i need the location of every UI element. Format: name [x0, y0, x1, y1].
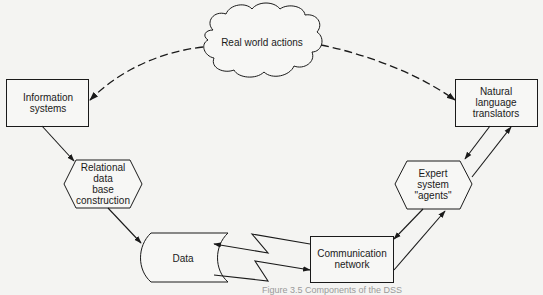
label-line: data — [76, 173, 130, 184]
label-line: "agents" — [414, 190, 451, 201]
edge-comm-to-data-lightning — [214, 234, 310, 253]
edge-expert-to-comm — [394, 209, 423, 239]
label-line: Information — [23, 92, 73, 103]
label-line: system — [414, 179, 451, 190]
edge-data-to-comm-lightning — [214, 261, 310, 281]
label-relational-data-base: Relational data base construction — [76, 162, 130, 206]
label-text: Real world actions — [221, 37, 303, 48]
label-text: Data — [172, 253, 193, 264]
edge-relational-to-data — [108, 208, 141, 243]
edge-expert-to-nl — [472, 127, 511, 177]
label-line: Communication — [317, 248, 386, 259]
figure-caption: Figure 3.5 Components of the DSS — [262, 285, 402, 295]
label-line: systems — [23, 103, 73, 114]
label-line: translators — [473, 108, 520, 119]
edge-cloud-to-nl-translators — [321, 45, 455, 100]
edge-info-to-relational — [42, 126, 74, 161]
label-real-world-actions: Real world actions — [221, 37, 303, 48]
label-expert-system: Expert system "agents" — [414, 168, 451, 201]
edge-cloud-to-info-systems — [90, 47, 203, 100]
edge-nl-to-expert — [465, 126, 490, 159]
label-line: network — [317, 259, 386, 270]
label-communication-network: Communication network — [317, 248, 386, 270]
label-line: construction — [76, 195, 130, 206]
edge-comm-to-expert — [394, 211, 445, 270]
label-information-systems: Information systems — [23, 92, 73, 114]
label-line: base — [76, 184, 130, 195]
label-line: Natural — [473, 86, 520, 97]
label-line: language — [473, 97, 520, 108]
label-data: Data — [172, 253, 193, 264]
label-line: Relational — [76, 162, 130, 173]
label-natural-language-translators: Natural language translators — [473, 86, 520, 119]
label-line: Expert — [414, 168, 451, 179]
